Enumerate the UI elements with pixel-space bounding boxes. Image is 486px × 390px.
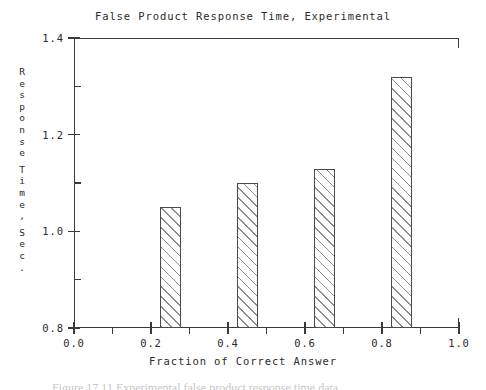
- y-axis-label-char: s: [14, 89, 30, 101]
- x-axis-tick-major: [150, 322, 151, 334]
- x-axis-tick-minor: [112, 328, 113, 334]
- y-axis-tick-minor: [74, 86, 81, 87]
- y-axis-tick-major: [68, 37, 80, 38]
- y-axis-label-char: c: [14, 250, 30, 262]
- x-axis-tick-major: [227, 322, 228, 334]
- x-axis-tick-minor: [420, 328, 421, 334]
- y-axis-label-char: e: [14, 199, 30, 211]
- y-axis-label: ResponseTime,Sec.: [14, 66, 30, 273]
- x-axis-tick-major: [304, 322, 305, 334]
- y-axis-tick-label: 1.0: [14, 225, 64, 237]
- y-axis-tick-minor: [74, 182, 81, 183]
- y-axis-label-char: m: [14, 187, 30, 199]
- bar: [160, 207, 181, 328]
- y-axis-label-char: o: [14, 112, 30, 124]
- axis-right-cap-top: [458, 38, 459, 48]
- x-axis-tick-label: 0.6: [275, 337, 335, 349]
- y-axis-tick-label: 0.8: [14, 322, 64, 334]
- y-axis-label-char: T: [14, 164, 30, 176]
- y-axis-label-char: ,: [14, 210, 30, 222]
- figure-container: False Product Response Time, Experimenta…: [0, 0, 486, 390]
- y-axis-label-char: .: [14, 262, 30, 274]
- y-axis-label-char: p: [14, 101, 30, 113]
- x-axis-tick-major: [458, 322, 459, 334]
- y-axis-label-char: R: [14, 66, 30, 78]
- bar: [391, 77, 412, 328]
- x-axis-tick-major: [73, 322, 74, 334]
- x-axis-tick-label: 0.0: [44, 337, 104, 349]
- x-axis-tick-minor: [189, 328, 190, 334]
- y-axis-tick-label: 1.4: [14, 32, 64, 44]
- x-axis-tick-label: 0.8: [352, 337, 412, 349]
- bar: [237, 183, 258, 328]
- y-axis-tick-label: 1.2: [14, 129, 64, 141]
- figure-caption-fragment: Figure 17.11 Experimental false product …: [52, 381, 472, 390]
- y-axis-label-char: e: [14, 147, 30, 159]
- y-axis-label-char: e: [14, 238, 30, 250]
- x-axis-tick-minor: [266, 328, 267, 334]
- x-axis-tick-label: 0.4: [198, 337, 258, 349]
- y-axis-tick-major: [68, 231, 80, 232]
- y-axis-label-char: e: [14, 78, 30, 90]
- y-axis-tick-minor: [74, 279, 81, 280]
- chart-title: False Product Response Time, Experimenta…: [0, 10, 486, 22]
- x-axis-tick-major: [381, 322, 382, 334]
- x-axis-tick-minor: [343, 328, 344, 334]
- bar: [314, 169, 335, 329]
- x-axis-tick-label: 0.2: [121, 337, 181, 349]
- y-axis-label-char: i: [14, 175, 30, 187]
- y-axis-tick-major: [68, 134, 80, 135]
- x-axis-label: Fraction of Correct Answer: [0, 355, 486, 367]
- x-axis-tick-label: 1.0: [429, 337, 486, 349]
